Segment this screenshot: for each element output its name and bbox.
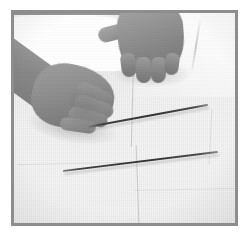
right-finger — [136, 57, 152, 84]
photo-frame: Two hands laying a thin straight rod fla… — [11, 10, 238, 226]
screenshot-root: Two hands laying a thin straight rod fla… — [0, 0, 249, 236]
right-finger — [120, 52, 138, 78]
left-hand-shading — [70, 93, 104, 127]
photograph: Two hands laying a thin straight rod fla… — [14, 13, 235, 223]
